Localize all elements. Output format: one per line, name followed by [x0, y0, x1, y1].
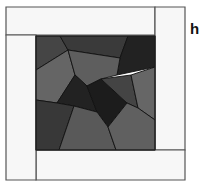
figure-label: h: [190, 20, 199, 37]
top-strip: [6, 7, 155, 35]
right-strip: [155, 7, 185, 150]
center-pieces: [36, 36, 155, 150]
bottom-strip: [36, 150, 185, 180]
quilt-block-diagram: [0, 0, 205, 185]
left-strip: [6, 35, 36, 180]
